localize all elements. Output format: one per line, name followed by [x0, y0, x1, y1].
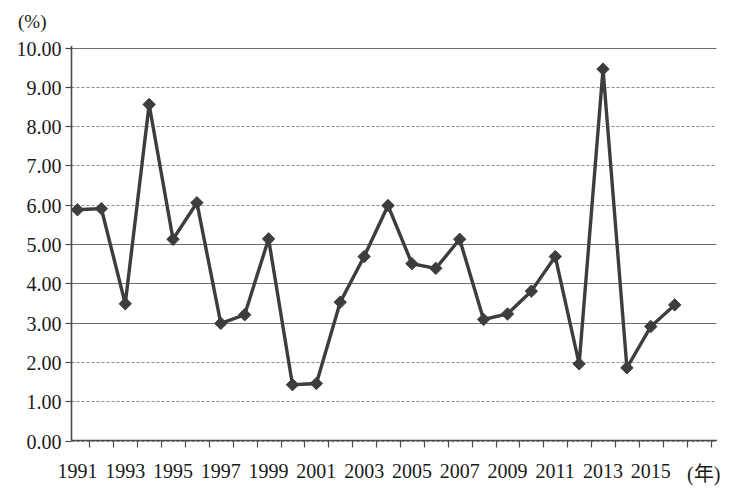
x-tick-label: 1993: [105, 460, 145, 482]
y-tick-label: 9.00: [27, 77, 62, 99]
y-tick-label: 6.00: [27, 195, 62, 217]
y-tick-label: 0.00: [27, 431, 62, 453]
x-tick-label: 2013: [583, 460, 623, 482]
data-line: [77, 69, 674, 385]
x-tick-label: 2007: [440, 460, 480, 482]
x-tick-label: 1995: [153, 460, 193, 482]
data-point-marker: [597, 63, 609, 75]
data-point-marker: [119, 298, 131, 310]
gridlines-group: [72, 49, 717, 442]
y-tick-label: 4.00: [27, 273, 62, 295]
y-tick-label: 1.00: [27, 391, 62, 413]
x-tick-label: 1991: [57, 460, 97, 482]
data-point-marker: [262, 233, 274, 245]
data-point-marker: [310, 377, 322, 389]
line-chart-figure: 10.009.008.007.006.005.004.003.002.001.0…: [0, 0, 745, 502]
data-point-marker: [406, 257, 418, 269]
y-tick-marks-group: [66, 49, 72, 442]
data-point-marker: [215, 317, 227, 329]
x-tick-label: 2003: [344, 460, 384, 482]
data-point-marker: [573, 358, 585, 370]
x-tick-label: 1997: [201, 460, 241, 482]
data-point-marker: [143, 98, 155, 110]
data-point-marker: [358, 250, 370, 262]
data-point-marker: [286, 378, 298, 390]
y-tick-labels-group: 10.009.008.007.006.005.004.003.002.001.0…: [17, 38, 62, 453]
chart-canvas: 10.009.008.007.006.005.004.003.002.001.0…: [0, 0, 745, 502]
y-tick-label: 2.00: [27, 352, 62, 374]
x-tick-label: 1999: [249, 460, 289, 482]
data-point-marker: [382, 199, 394, 211]
y-tick-label: 3.00: [27, 313, 62, 335]
y-tick-label: 5.00: [27, 234, 62, 256]
x-axis-title: (年): [687, 463, 720, 486]
y-tick-label: 8.00: [27, 116, 62, 138]
x-tick-label: 2011: [536, 460, 575, 482]
data-point-marker: [334, 296, 346, 308]
x-tick-labels-group: 1991199319951997199920012003200520072009…: [57, 460, 670, 482]
x-tick-label: 2001: [296, 460, 336, 482]
y-tick-label: 10.00: [17, 38, 62, 60]
data-point-marker: [238, 309, 250, 321]
y-axis-unit-label: (%): [18, 11, 46, 33]
x-tick-label: 2015: [631, 460, 671, 482]
y-tick-label: 7.00: [27, 155, 62, 177]
x-tick-label: 2005: [392, 460, 432, 482]
x-tick-label: 2009: [487, 460, 527, 482]
data-point-marker: [95, 202, 107, 214]
